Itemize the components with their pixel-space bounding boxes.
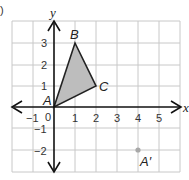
y-tick-1: 1 — [41, 80, 47, 92]
y-tick-neg2: −2 — [34, 145, 47, 157]
y-axis-label: y — [48, 5, 56, 20]
label-b: B — [70, 27, 79, 42]
x-tick-3: 3 — [114, 112, 120, 124]
x-tick-0: 0 — [45, 111, 51, 123]
x-tick-4: 4 — [135, 112, 141, 124]
label-c: C — [99, 79, 109, 94]
coordinate-plane: y x ) −1 0 1 2 3 4 5 3 2 1 −1 −2 A B C A… — [0, 0, 189, 180]
y-tick-neg1: −1 — [34, 123, 47, 135]
label-a: A — [42, 93, 52, 108]
x-tick-5: 5 — [156, 112, 162, 124]
x-axis-label: x — [182, 100, 189, 115]
x-tick-2: 2 — [93, 112, 99, 124]
y-tick-3: 3 — [41, 37, 47, 49]
x-tick-1: 1 — [72, 112, 78, 124]
y-tick-2: 2 — [41, 59, 47, 71]
corner-label: ) — [0, 4, 4, 16]
label-a-prime: A′ — [139, 154, 152, 169]
point-a-prime — [135, 147, 140, 152]
